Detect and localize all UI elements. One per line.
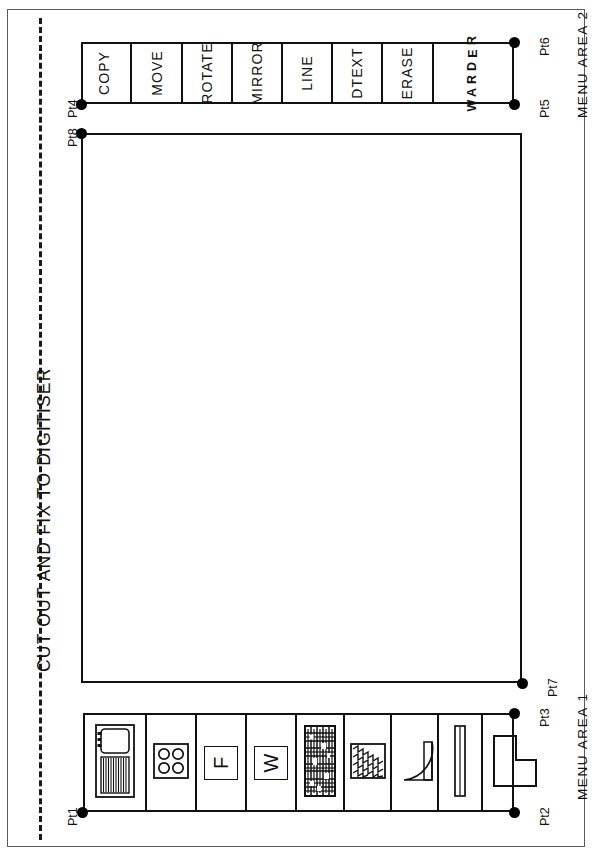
calibration-dot-pt2[interactable] — [509, 807, 520, 818]
calibration-label-pt2: Pt2 — [538, 807, 552, 826]
menu2-cell-line[interactable]: LINE — [281, 44, 331, 102]
menu1-cell-fridge[interactable]: F — [197, 715, 247, 810]
menu-area-1-title: MENU AREA 1 — [575, 692, 590, 800]
menu2-cell-copy[interactable]: COPY — [79, 44, 130, 102]
redraw-letter: A — [467, 88, 480, 97]
menu1-cell-zigzag-hatch[interactable] — [345, 715, 392, 810]
l-shape-symbol-icon — [492, 734, 538, 792]
digitiser-template-page: CUT OUT AND FIX TO DIGITISER SCREEN DRAW… — [0, 0, 593, 856]
dense-hatch-symbol-icon — [304, 725, 336, 801]
menu-area-1: F W — [83, 713, 514, 812]
calibration-label-pt8: Pt8 — [66, 128, 80, 147]
menu2-cell-redraw[interactable]: R E D R A W — [432, 44, 512, 102]
menu-area-2-title: MENU AREA 2 — [575, 10, 590, 118]
menu1-cell-window[interactable] — [439, 715, 483, 810]
redraw-letter: D — [467, 62, 480, 71]
menu1-cell-door[interactable] — [392, 715, 439, 810]
calibration-dot-pt3[interactable] — [509, 708, 520, 719]
menu2-cell-rotate[interactable]: ROTATE — [181, 44, 231, 102]
fridge-symbol-icon: F — [204, 746, 238, 780]
washer-symbol-icon: W — [254, 746, 288, 780]
menu2-cell-move[interactable]: MOVE — [130, 44, 181, 102]
calibration-dot-pt6[interactable] — [509, 37, 520, 48]
calibration-dot-pt5[interactable] — [509, 99, 520, 110]
hob-symbol-icon — [153, 743, 189, 783]
redraw-stacked-label: R E D R A W — [467, 34, 479, 112]
menu2-label-dtext: DTEXT — [349, 47, 365, 98]
menu2-label-mirror: MIRROR — [249, 41, 265, 104]
zigzag-hatch-symbol-icon — [350, 743, 386, 783]
door-swing-symbol-icon — [396, 740, 434, 786]
menu2-label-line: LINE — [299, 55, 315, 91]
menu1-cell-washer[interactable]: W — [247, 715, 297, 810]
menu2-label-copy: COPY — [96, 51, 112, 95]
menu2-label-erase: ERASE — [400, 47, 416, 100]
calibration-dot-pt7[interactable] — [517, 678, 528, 689]
window-symbol-icon — [454, 725, 466, 801]
redraw-letter: E — [467, 49, 480, 57]
menu2-cell-dtext[interactable]: DTEXT — [331, 44, 381, 102]
menu1-cell-hob[interactable] — [147, 715, 197, 810]
redraw-letter: W — [467, 100, 480, 112]
cut-instruction-label: CUT OUT AND FIX TO DIGITISER — [34, 367, 55, 672]
menu1-cell-cooker[interactable] — [85, 715, 147, 810]
calibration-label-pt6: Pt6 — [538, 37, 552, 56]
fridge-letter: F — [211, 756, 231, 768]
menu2-label-rotate: ROTATE — [199, 42, 215, 103]
redraw-letter: R — [467, 75, 480, 84]
calibration-label-pt4: Pt4 — [66, 99, 80, 118]
calibration-label-pt1: Pt1 — [66, 807, 80, 826]
calibration-label-pt3: Pt3 — [538, 708, 552, 727]
calibration-label-pt5: Pt5 — [538, 99, 552, 118]
menu1-cell-dense-hatch[interactable] — [297, 715, 345, 810]
menu2-cell-mirror[interactable]: MIRROR — [231, 44, 281, 102]
redraw-letter: R — [467, 36, 480, 45]
cooker-symbol-icon — [95, 724, 135, 802]
menu-area-2: R E D R A W ERASE DTEXT LINE MIRROR ROTA… — [81, 42, 514, 104]
calibration-label-pt7: Pt7 — [546, 678, 560, 697]
washer-letter: W — [261, 753, 281, 772]
menu2-cell-erase[interactable]: ERASE — [381, 44, 432, 102]
menu1-cell-l-shape[interactable] — [483, 715, 546, 810]
menu2-label-move: MOVE — [148, 50, 164, 96]
screen-drawing-area[interactable] — [81, 133, 522, 683]
